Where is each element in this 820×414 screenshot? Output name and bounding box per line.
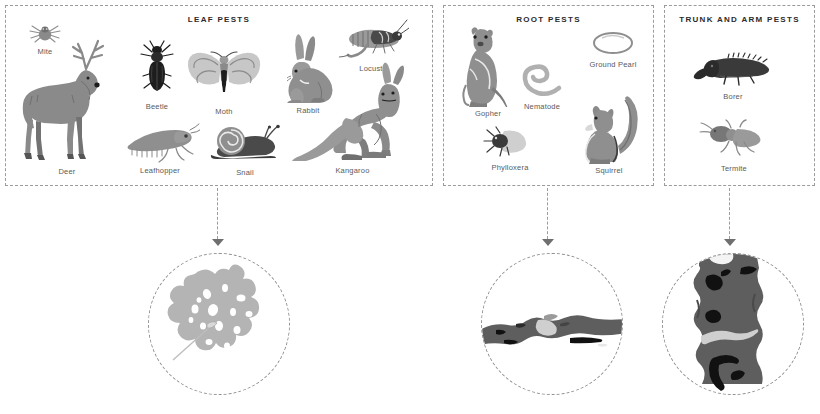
panel-trunk-title: TRUNK AND ARM PESTS (665, 15, 814, 24)
pest-item-kangaroo[interactable]: Kangaroo (290, 62, 415, 177)
pest-item-leafhopper[interactable]: Leafhopper (120, 122, 200, 177)
pest-item-termite[interactable]: Termite (695, 118, 773, 176)
squirrel-icon (578, 88, 640, 164)
nematode-icon (518, 58, 566, 100)
pest-label-ground-pearl: Ground Pearl (580, 60, 646, 69)
result-damaged-root (481, 253, 623, 395)
damaged-trunk-illustration (663, 254, 804, 395)
snail-icon (207, 124, 283, 166)
damaged-leaf-illustration (149, 254, 290, 395)
diagram-canvas: LEAF PESTS Mite (0, 0, 820, 414)
pest-item-ground-pearl[interactable]: Ground Pearl (580, 30, 646, 75)
pest-label-leafhopper: Leafhopper (120, 166, 200, 175)
pest-label-snail: Snail (207, 168, 283, 177)
result-damaged-trunk (662, 253, 804, 395)
deer-icon (12, 33, 122, 165)
pest-item-deer[interactable]: Deer (12, 33, 122, 178)
pest-item-moth[interactable]: Moth (185, 45, 263, 117)
termite-icon (695, 118, 773, 162)
pest-item-nematode[interactable]: Nematode (518, 58, 566, 113)
pest-label-termite: Termite (695, 164, 773, 173)
pest-item-borer[interactable]: Borer (690, 52, 776, 104)
pest-label-squirrel: Squirrel (578, 166, 640, 175)
gopher-icon (455, 25, 521, 107)
arrow-leaf-to-result (206, 188, 230, 246)
pest-label-phylloxera: Phylloxera (478, 163, 542, 172)
panel-root-title: ROOT PESTS (444, 15, 653, 24)
borer-icon (690, 52, 776, 90)
phylloxera-icon (478, 125, 542, 161)
pest-item-beetle[interactable]: Beetle (135, 40, 179, 112)
arrow-trunk-to-result (718, 188, 742, 246)
pest-item-squirrel[interactable]: Squirrel (578, 88, 640, 176)
pest-item-gopher[interactable]: Gopher (455, 25, 521, 120)
pest-item-snail[interactable]: Snail (207, 124, 283, 177)
pest-label-kangaroo: Kangaroo (290, 166, 415, 175)
pest-label-gopher: Gopher (455, 109, 521, 118)
pest-item-phylloxera[interactable]: Phylloxera (478, 125, 542, 175)
damaged-root-illustration (482, 254, 623, 395)
ground-pearl-icon (580, 30, 646, 56)
pest-label-nematode: Nematode (518, 102, 566, 111)
pest-label-beetle: Beetle (135, 102, 179, 111)
beetle-icon (135, 40, 179, 98)
pest-label-borer: Borer (690, 92, 776, 101)
kangaroo-icon (290, 62, 415, 164)
arrow-root-to-result (536, 188, 560, 246)
leafhopper-icon (120, 122, 200, 164)
pest-label-deer: Deer (12, 167, 122, 176)
locust-icon (333, 18, 409, 62)
moth-icon (185, 45, 263, 103)
result-damaged-leaf (148, 253, 290, 395)
pest-label-moth: Moth (185, 107, 263, 116)
